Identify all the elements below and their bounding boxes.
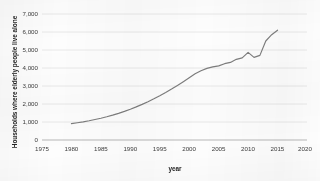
y-axis-title: Households where elderly people live alo… bbox=[11, 15, 19, 148]
x-tick-label: 2010 bbox=[241, 145, 255, 152]
y-tick-label: 0 bbox=[35, 136, 39, 143]
x-axis-ticks: 1975 1980 1985 1990 1995 2000 2005 2010 … bbox=[35, 145, 312, 152]
x-tick-label: 1995 bbox=[153, 145, 167, 152]
y-axis-ticks: 7,000 6,000 5,000 4,000 3,000 2,000 1,00… bbox=[23, 10, 39, 143]
x-axis-title: year bbox=[168, 165, 182, 173]
y-tick-label: 6,000 bbox=[23, 28, 39, 35]
x-tick-label: 1980 bbox=[65, 145, 79, 152]
chart-figure: 7,000 6,000 5,000 4,000 3,000 2,000 1,00… bbox=[0, 0, 320, 181]
y-tick-label: 5,000 bbox=[23, 46, 39, 53]
y-tick-label: 1,000 bbox=[23, 118, 39, 125]
x-tick-label: 2020 bbox=[298, 145, 312, 152]
y-tick-label: 3,000 bbox=[23, 82, 39, 89]
x-tick-label: 1990 bbox=[123, 145, 137, 152]
x-tick-label: 2000 bbox=[182, 145, 196, 152]
data-series-line bbox=[71, 30, 277, 123]
line-chart: 7,000 6,000 5,000 4,000 3,000 2,000 1,00… bbox=[0, 0, 320, 181]
x-tick-label: 2005 bbox=[212, 145, 226, 152]
x-tick-label: 1985 bbox=[94, 145, 108, 152]
y-tick-label: 4,000 bbox=[23, 64, 39, 71]
x-tick-label: 1975 bbox=[35, 145, 49, 152]
gridlines bbox=[42, 14, 307, 122]
x-tick-label: 2015 bbox=[271, 145, 285, 152]
y-tick-label: 2,000 bbox=[23, 100, 39, 107]
y-tick-label: 7,000 bbox=[23, 10, 39, 17]
